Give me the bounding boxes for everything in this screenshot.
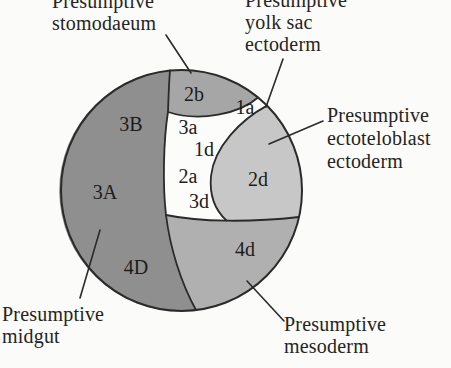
- fate-map-figure: { "figure": { "background": "#fbfbf9", "…: [0, 0, 451, 368]
- cell-label-2d: 2d: [248, 168, 268, 190]
- label-yolk-sac-ectoderm: Presumptive yolk sac ectoderm: [245, 0, 347, 55]
- label-line: midgut: [2, 325, 104, 347]
- cell-label-2a: 2a: [179, 165, 198, 187]
- label-line: ectoderm: [245, 33, 347, 55]
- leader-line-mesoderm: [247, 281, 284, 321]
- leader-line-yolk-sac: [266, 59, 283, 107]
- cell-label-1a: 1a: [236, 96, 255, 118]
- cell-label-3B: 3B: [119, 113, 142, 135]
- cell-label-1d: 1d: [194, 138, 214, 160]
- cell-label-4d: 4d: [235, 238, 255, 260]
- label-midgut: Presumptive midgut: [2, 303, 104, 347]
- label-line: mesoderm: [284, 335, 386, 357]
- label-mesoderm: Presumptive mesoderm: [284, 313, 386, 357]
- label-line: Presumptive: [52, 0, 156, 12]
- label-line: stomodaeum: [52, 12, 156, 34]
- label-line: Presumptive: [284, 313, 386, 335]
- label-line: yolk sac: [245, 11, 347, 33]
- cell-label-3a: 3a: [179, 116, 198, 138]
- leader-line-stomodaeum: [166, 35, 191, 73]
- label-line: Presumptive: [245, 0, 347, 11]
- label-line: Presumptive: [2, 303, 104, 325]
- label-line: ectoderm: [327, 150, 431, 173]
- label-ectoteloblast-ectoderm: Presumptive ectoteloblast ectoderm: [327, 104, 431, 173]
- cell-label-3A: 3A: [93, 181, 118, 203]
- cell-label-3d: 3d: [189, 190, 209, 212]
- cell-label-4D: 4D: [124, 256, 148, 278]
- label-line: Presumptive: [327, 104, 431, 127]
- label-stomodaeum: Presumptive stomodaeum: [52, 0, 156, 34]
- cell-label-2b: 2b: [184, 83, 204, 105]
- label-line: ectoteloblast: [327, 127, 431, 150]
